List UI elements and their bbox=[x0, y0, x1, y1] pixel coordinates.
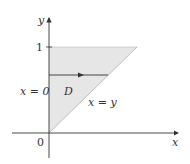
diagonal-boundary-label: x = y bbox=[88, 96, 117, 109]
origin-label: 0 bbox=[37, 136, 44, 149]
region-diagram: y x 1 0 D x = 0 x = y bbox=[0, 0, 190, 164]
x-axis-label: x bbox=[172, 136, 179, 149]
left-boundary-label: x = 0 bbox=[20, 85, 49, 98]
y-tick-label-one: 1 bbox=[36, 41, 43, 54]
y-axis-label: y bbox=[37, 14, 45, 27]
region-label: D bbox=[63, 85, 73, 98]
